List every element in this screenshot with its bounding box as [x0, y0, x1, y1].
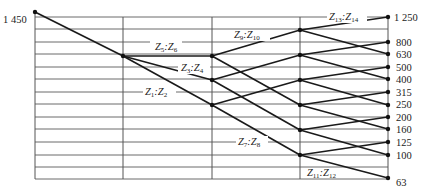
speed-label-630: 630	[396, 49, 412, 60]
speed-label-250: 250	[396, 99, 412, 110]
speed-label-125: 125	[396, 137, 412, 148]
speed-label-315: 315	[396, 87, 412, 98]
input-speed-label: 1 450	[3, 14, 27, 25]
speed-label-63: 63	[396, 177, 407, 188]
speed-diagram: 1 450 1 250 800 630 500 400 315 250 200 …	[0, 0, 427, 192]
output-speed-labels: 1 250 800 630 500 400 315 250 200 160 12…	[394, 12, 418, 188]
speed-label-1250: 1 250	[394, 12, 418, 23]
shaft-lines	[35, 12, 388, 179]
speed-label-100: 100	[396, 150, 412, 161]
gear-label-z11z12: Z11:Z12	[307, 167, 336, 180]
speed-label-800: 800	[396, 37, 412, 48]
speed-label-500: 500	[396, 62, 412, 73]
speed-label-160: 160	[396, 124, 412, 135]
speed-label-200: 200	[396, 112, 412, 123]
speed-label-400: 400	[396, 74, 412, 85]
